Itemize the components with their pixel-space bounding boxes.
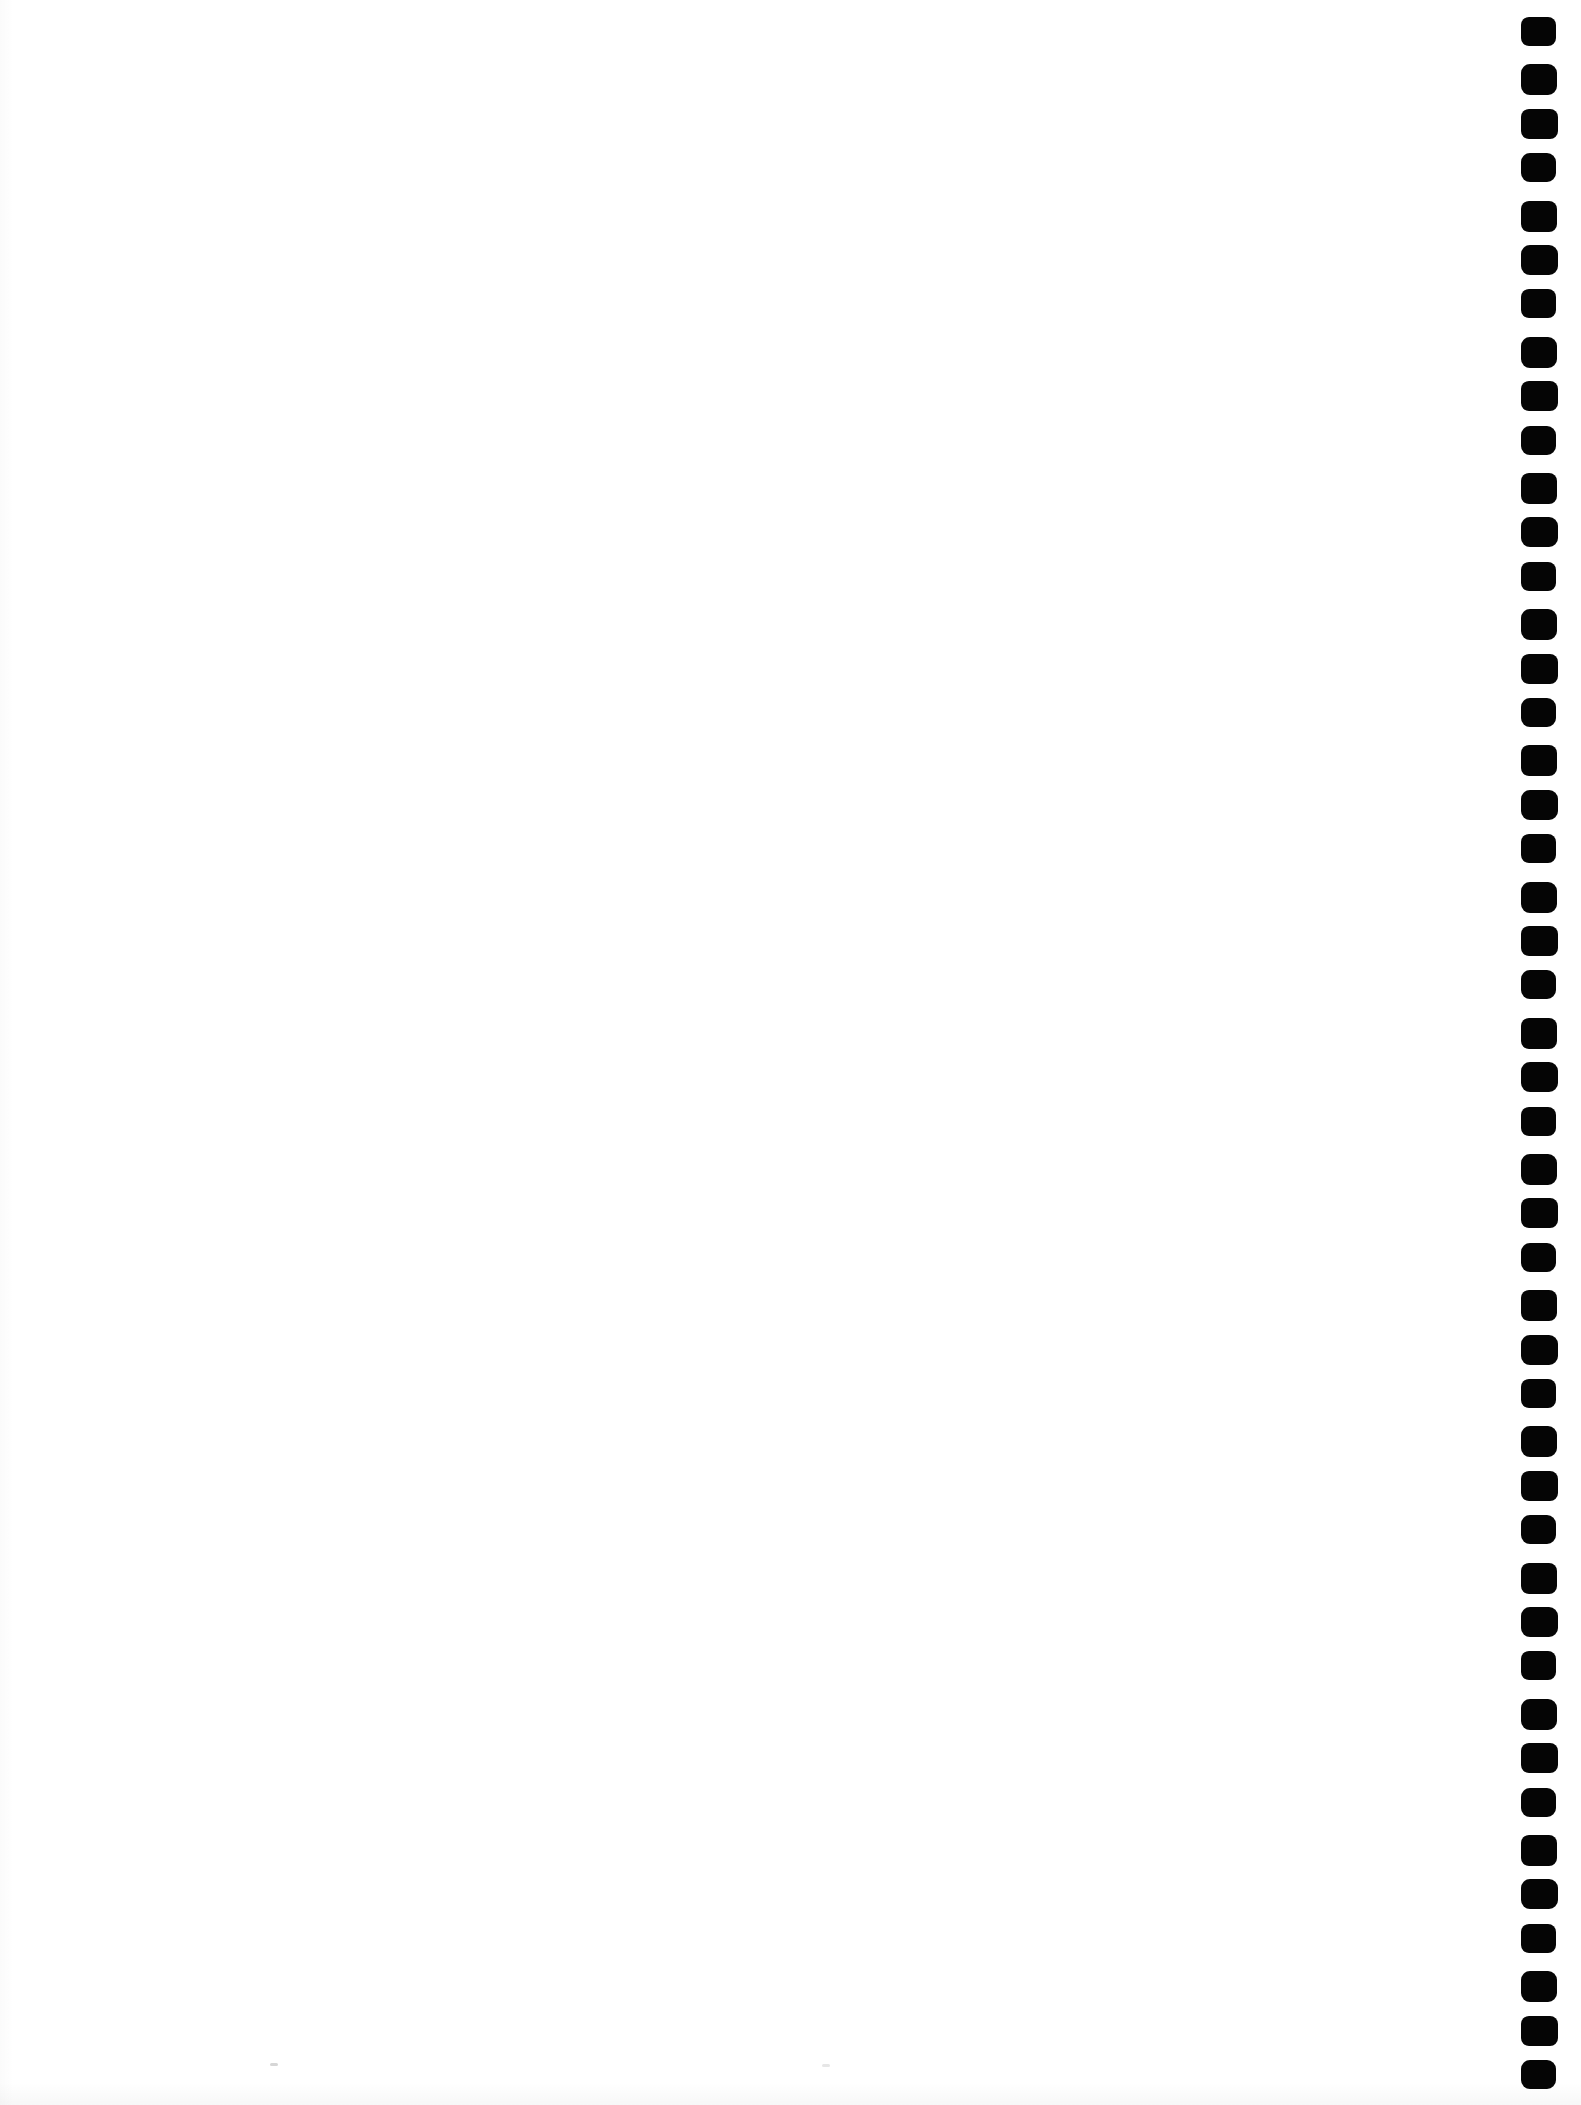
scan-speck [270, 2063, 278, 2066]
binding-hole [1521, 698, 1556, 727]
binding-hole [1521, 654, 1558, 684]
binding-hole [1521, 426, 1556, 455]
binding-hole [1521, 970, 1556, 999]
binding-hole [1521, 201, 1557, 232]
binding-holes-column [1521, 0, 1561, 2105]
binding-hole [1521, 926, 1558, 956]
binding-hole [1521, 1607, 1558, 1637]
binding-hole [1521, 1379, 1556, 1408]
binding-hole [1521, 1563, 1557, 1594]
binding-hole [1521, 1243, 1556, 1272]
binding-hole [1521, 609, 1557, 640]
binding-hole [1521, 882, 1557, 913]
bottom-edge-scan-noise [0, 2083, 1581, 2105]
binding-hole [1521, 245, 1558, 275]
binding-hole [1521, 1018, 1557, 1049]
binding-hole [1521, 1335, 1558, 1365]
binding-hole [1521, 1062, 1558, 1092]
binding-hole [1521, 790, 1558, 820]
binding-hole [1521, 64, 1557, 95]
binding-hole [1521, 1651, 1556, 1680]
binding-hole [1521, 337, 1557, 368]
binding-hole [1521, 1471, 1558, 1501]
binding-hole [1521, 1107, 1556, 1136]
binding-hole [1521, 473, 1557, 504]
binding-hole [1521, 17, 1556, 46]
binding-hole [1521, 1290, 1557, 1321]
binding-hole [1521, 2060, 1556, 2089]
binding-hole [1521, 1426, 1557, 1457]
binding-hole [1521, 289, 1556, 318]
binding-hole [1521, 2016, 1558, 2046]
scanned-blank-page [0, 0, 1581, 2105]
binding-hole [1521, 1788, 1556, 1817]
binding-hole [1521, 1154, 1557, 1185]
scan-speck [822, 2064, 830, 2067]
left-edge-scan-noise [0, 0, 14, 2105]
binding-hole [1521, 109, 1558, 139]
binding-hole [1521, 562, 1556, 591]
binding-hole [1521, 153, 1556, 182]
binding-hole [1521, 1971, 1557, 2002]
binding-hole [1521, 1879, 1558, 1909]
binding-hole [1521, 381, 1558, 411]
binding-hole [1521, 1743, 1558, 1773]
binding-hole [1521, 834, 1556, 863]
binding-hole [1521, 1835, 1557, 1866]
binding-hole [1521, 1699, 1557, 1730]
binding-hole [1521, 1198, 1558, 1228]
binding-hole [1521, 1924, 1556, 1953]
binding-hole [1521, 745, 1557, 776]
binding-hole [1521, 517, 1558, 547]
binding-hole [1521, 1515, 1556, 1544]
